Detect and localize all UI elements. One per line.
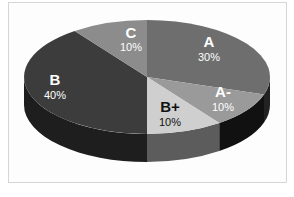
- label-Aminus-pct: 10%: [212, 101, 234, 113]
- label-Bplus-name: B+: [160, 98, 180, 115]
- pie-top: [24, 20, 270, 134]
- label-A-pct: 30%: [198, 51, 220, 63]
- label-B-pct: 40%: [44, 89, 66, 101]
- label-C-name: C: [126, 24, 137, 41]
- label-B-name: B: [50, 71, 61, 88]
- label-C-pct: 10%: [120, 41, 142, 53]
- label-A-name: A: [204, 33, 215, 50]
- label-Bplus-pct: 10%: [159, 116, 181, 128]
- pie-chart-3d: A 30% A- 10% B+ 10% B 40% C 10%: [0, 0, 294, 197]
- label-Aminus-name: A-: [215, 83, 231, 100]
